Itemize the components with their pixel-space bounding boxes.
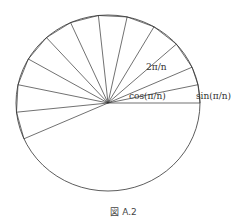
sin-label: sin(π/n) [196, 91, 231, 101]
figure-caption: 図 A.2 [0, 205, 247, 218]
circle-with-inscribed-polygon [16, 15, 200, 191]
circle-polygon-diagram: 2π/n cos(π/n) sin(π/n) [0, 0, 247, 224]
cos-label: cos(π/n) [129, 91, 166, 101]
angle-label: 2π/n [146, 62, 167, 72]
